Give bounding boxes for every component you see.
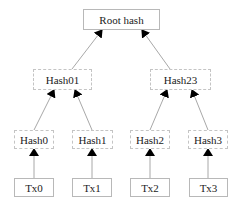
edge-hash23-root: [142, 30, 170, 69]
node-hash0: Hash0: [14, 130, 54, 149]
node-hash1: Hash1: [72, 130, 113, 149]
node-hash01: Hash01: [33, 69, 92, 90]
node-root-hash: Root hash: [83, 9, 160, 30]
node-hash2: Hash2: [130, 130, 170, 149]
edge-hash01-root: [72, 30, 102, 69]
edge-hash2-hash23: [150, 90, 167, 130]
merkle-tree-diagram: Root hash Hash01 Hash23 Hash0 Hash1 Hash…: [0, 0, 242, 209]
node-tx3: Tx3: [189, 178, 228, 197]
node-tx1: Tx1: [72, 178, 112, 197]
edge-hash3-hash23: [192, 90, 208, 130]
node-tx2: Tx2: [130, 178, 170, 197]
node-tx0: Tx0: [14, 178, 54, 197]
node-hash3: Hash3: [188, 130, 228, 149]
edge-hash0-hash01: [34, 90, 54, 130]
edge-hash1-hash01: [75, 90, 92, 130]
node-hash23: Hash23: [150, 69, 211, 90]
